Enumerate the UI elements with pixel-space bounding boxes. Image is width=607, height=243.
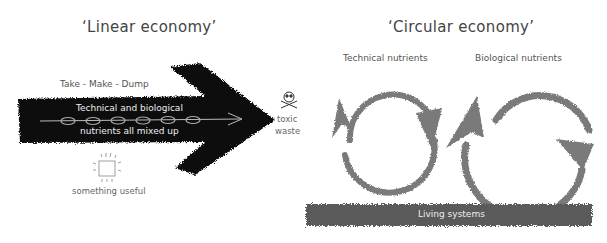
toxic-label: toxic xyxy=(277,115,297,124)
something-useful-label: something useful xyxy=(72,187,146,196)
arrow-text-bottom: nutrients all mixed up xyxy=(80,127,179,136)
technical-cycle-arrows xyxy=(345,95,435,193)
waste-label: waste xyxy=(275,127,300,136)
glowing-box-icon xyxy=(93,153,121,182)
skull-and-crossbones-icon xyxy=(281,92,297,108)
biological-nutrients-label: Biological nutrients xyxy=(475,54,562,63)
diagram-canvas xyxy=(0,0,607,243)
biological-cycle-arrows xyxy=(465,96,589,217)
arrow-text-top: Technical and biological xyxy=(76,104,183,113)
circular-economy-title: ‘Circular economy’ xyxy=(388,20,534,35)
linear-economy-title: ‘Linear economy’ xyxy=(82,20,217,35)
take-make-dump-label: Take - Make - Dump xyxy=(60,80,149,89)
living-systems-label: Living systems xyxy=(418,210,485,219)
technical-nutrients-label: Technical nutrients xyxy=(343,54,428,63)
